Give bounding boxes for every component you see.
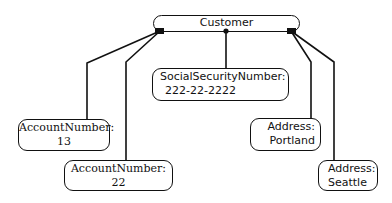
multi-valued-connector-left-icon — [155, 28, 164, 34]
diagram-connectors — [0, 0, 392, 203]
diagram-canvas: Customer SocialSecurityNumber: 222-22-22… — [0, 0, 392, 203]
multi-valued-connector-right-icon — [287, 28, 296, 34]
single-valued-connector-dot-icon — [223, 28, 228, 33]
